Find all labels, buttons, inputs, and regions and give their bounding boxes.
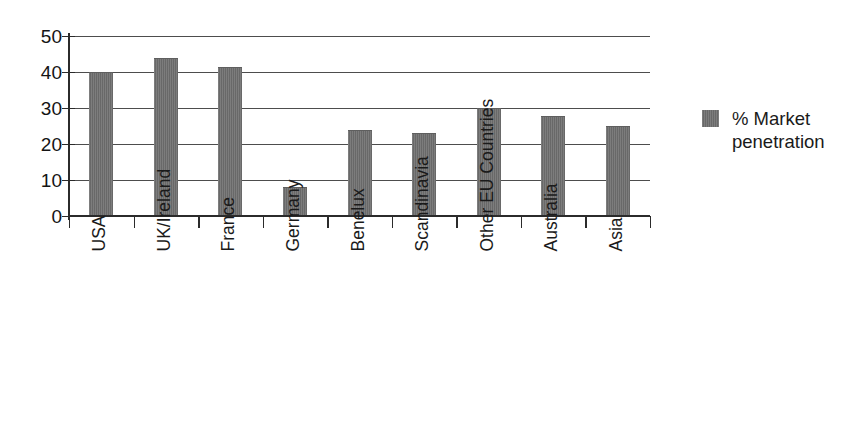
x-cat-label-france: France	[220, 197, 238, 251]
x-cat-label-germany: Germany	[284, 180, 302, 252]
x-cat-label-other-eu-countries: Other EU Countries	[478, 99, 496, 252]
legend-label-market-penetration: % Market penetration	[732, 107, 852, 153]
bar-chart: 50 40 30 20 10 0 USA UK/Ireland F	[0, 0, 859, 437]
x-cat-label-asia: Asia	[607, 217, 625, 251]
x-cat-label-uk-ireland: UK/Ireland	[155, 169, 173, 252]
x-cat-label-usa: USA	[91, 216, 109, 252]
legend-swatch-market-penetration	[702, 110, 719, 127]
x-axis-category-labels: USA UK/Ireland France Germany Benelux Sc…	[0, 0, 859, 437]
chart-legend: % Market penetration	[702, 107, 852, 153]
x-cat-label-benelux: Benelux	[349, 188, 367, 251]
x-cat-label-scandinavia: Scandinavia	[414, 156, 432, 251]
x-cat-label-australia: Australia	[543, 183, 561, 251]
